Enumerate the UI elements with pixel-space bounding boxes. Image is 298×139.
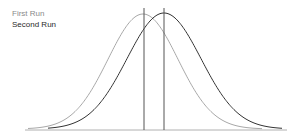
distribution-chart [0, 0, 298, 139]
first-run-curve [28, 14, 262, 129]
second-run-curve [48, 13, 282, 128]
